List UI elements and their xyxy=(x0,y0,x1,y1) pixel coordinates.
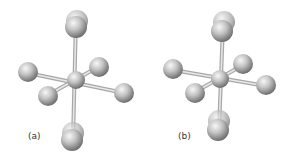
atom-axial-bottom xyxy=(207,119,229,141)
atom-central xyxy=(211,70,229,88)
atom-equatorial-right xyxy=(114,83,134,103)
panel-a: (a) xyxy=(18,10,134,151)
atom-equatorial-front xyxy=(185,83,205,103)
atom-axial-top xyxy=(65,16,87,38)
atom-equatorial-back xyxy=(233,54,253,74)
atom-equatorial-right xyxy=(256,75,276,95)
figure-canvas: (a) (b) xyxy=(0,0,297,163)
atom-equatorial-back xyxy=(89,57,109,77)
atom-central xyxy=(67,71,85,89)
atom-axial-bottom xyxy=(61,129,83,151)
atom-axial-top xyxy=(211,20,233,42)
panel-b: (b) xyxy=(163,11,276,141)
panel-label-a: (a) xyxy=(28,131,41,141)
atom-equatorial-front xyxy=(38,86,58,106)
atom-equatorial-left xyxy=(163,59,183,79)
panel-label-b: (b) xyxy=(178,131,191,141)
atom-equatorial-left xyxy=(18,62,38,82)
